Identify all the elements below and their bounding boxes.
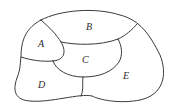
region-label-e: E: [122, 70, 129, 81]
region-label-d: D: [37, 79, 46, 90]
border-a-d: [21, 57, 53, 61]
border-b-c-e: [61, 24, 137, 44]
region-label-b: B: [86, 21, 92, 32]
map-diagram: A B C D E: [0, 0, 172, 112]
region-label-c: C: [82, 54, 89, 65]
border-a-c: [53, 42, 64, 61]
border-d-e: [81, 77, 83, 96]
region-label-a: A: [37, 38, 45, 49]
